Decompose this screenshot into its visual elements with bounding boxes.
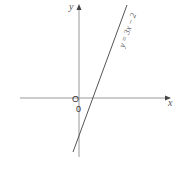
x-axis-label: x <box>167 97 173 108</box>
line-equation-label: y = 3x − 2 <box>116 11 138 50</box>
y-axis-label: y <box>68 1 74 12</box>
coordinate-plane: y x O 0 y = 3x − 2 <box>0 0 186 171</box>
line-y-equals-3x-minus-2 <box>73 5 127 152</box>
y-axis-arrow-icon <box>77 4 82 10</box>
origin-label-upper: O <box>72 94 79 104</box>
origin-label-lower: 0 <box>76 104 81 114</box>
